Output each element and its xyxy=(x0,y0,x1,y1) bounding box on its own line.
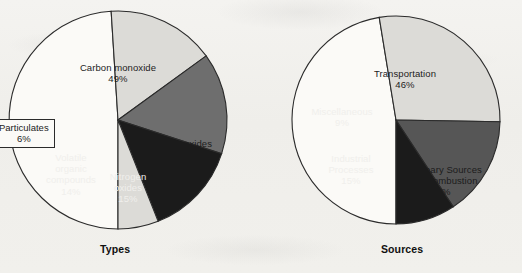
pie-charts-svg xyxy=(0,0,522,273)
label-sulfur-oxides-pct: 16% xyxy=(143,149,225,160)
label-voc-line1: Volatile xyxy=(55,152,86,163)
label-stationary-pct: 27% xyxy=(386,186,496,197)
label-carbon-monoxide-pct: 49% xyxy=(61,73,175,84)
label-voc-pct: 14% xyxy=(38,186,104,197)
caption-sources: Sources xyxy=(381,243,423,255)
label-carbon-monoxide: Carbon monoxide 49% xyxy=(61,62,175,84)
label-stationary-line1: Stationary Sources xyxy=(400,164,482,175)
label-industrial-line2: Processes xyxy=(316,164,386,175)
label-industrial-line1: Industrial xyxy=(331,153,370,164)
label-nitrogen-oxides-line2: oxides xyxy=(101,182,155,193)
label-miscellaneous-pct: 9% xyxy=(298,117,386,128)
label-sulfur-oxides-name: Sulfur oxides xyxy=(156,138,212,149)
label-particulates-name: Particulates xyxy=(0,122,49,133)
label-voc-line3: compounds xyxy=(38,174,104,185)
label-miscellaneous-name: Miscellaneous xyxy=(311,106,372,117)
label-particulates-callout: Particulates 6% xyxy=(0,119,55,148)
label-voc-line2: organic xyxy=(38,163,104,174)
label-transportation-pct: 46% xyxy=(357,79,453,90)
label-volatile-organic-compounds: Volatile organic compounds 14% xyxy=(38,152,104,197)
label-carbon-monoxide-name: Carbon monoxide xyxy=(80,62,156,73)
label-particulates-pct: 6% xyxy=(0,133,49,144)
label-nitrogen-oxides-line1: Nitrogen xyxy=(110,171,147,182)
label-transportation: Transportation 46% xyxy=(357,68,453,90)
label-sulfur-oxides: Sulfur oxides 16% xyxy=(143,138,225,160)
label-industrial-pct: 15% xyxy=(316,175,386,186)
label-stationary-sources: Stationary Sources Fuel Combustion 27% xyxy=(386,164,496,198)
caption-types: Types xyxy=(100,243,130,255)
label-nitrogen-oxides-pct: 15% xyxy=(101,193,155,204)
label-industrial-processes: Industrial Processes 15% xyxy=(316,153,386,187)
label-transportation-name: Transportation xyxy=(374,68,436,79)
label-nitrogen-oxides: Nitrogen oxides 15% xyxy=(101,171,155,205)
label-miscellaneous: Miscellaneous 9% xyxy=(298,106,386,128)
label-stationary-line2: Fuel Combustion xyxy=(386,175,496,186)
